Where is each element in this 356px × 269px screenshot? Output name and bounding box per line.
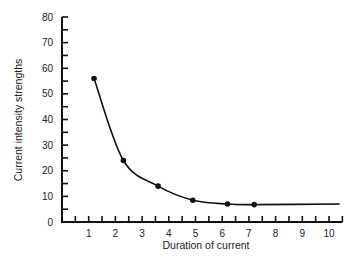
x-tick-label: 7 [246, 228, 252, 239]
x-tick-label: 2 [113, 228, 119, 239]
chart: 01020304050607080 12345678910 Duration o… [0, 0, 356, 269]
y-tick-label: 30 [42, 140, 54, 151]
y-tick-label: 80 [42, 12, 54, 23]
y-tick-label: 10 [42, 191, 54, 202]
x-tick-label: 5 [193, 228, 199, 239]
series-line [94, 79, 340, 205]
plot-area [91, 76, 339, 208]
y-tick-label: 70 [42, 37, 54, 48]
y-tick-label: 60 [42, 63, 54, 74]
x-axis: 12345678910 [61, 216, 342, 239]
data-point-marker [121, 158, 127, 164]
x-tick-label: 10 [323, 228, 335, 239]
x-tick-label: 3 [139, 228, 145, 239]
y-tick-label: 50 [42, 88, 54, 99]
y-tick-label: 40 [42, 114, 54, 125]
y-tick-label: 0 [47, 217, 53, 228]
y-axis: 01020304050607080 [42, 12, 68, 228]
x-axis-title: Duration of current [163, 239, 250, 251]
x-tick-label: 9 [300, 228, 306, 239]
data-point-marker [225, 201, 231, 207]
y-tick-label: 20 [42, 165, 54, 176]
data-point-marker [91, 76, 97, 82]
y-axis-title: Current intensity strengths [12, 59, 24, 182]
data-point-marker [155, 183, 161, 189]
data-point-marker [190, 197, 196, 203]
x-tick-label: 6 [219, 228, 225, 239]
data-point-marker [251, 202, 257, 208]
x-tick-label: 1 [86, 228, 92, 239]
x-tick-label: 4 [166, 228, 172, 239]
x-tick-label: 8 [273, 228, 279, 239]
